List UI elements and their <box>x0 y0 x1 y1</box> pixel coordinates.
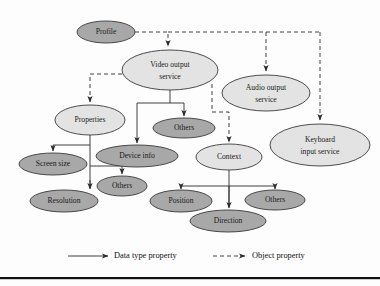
node-resolution[interactable]: Resolution <box>30 190 98 212</box>
node-video-output-service[interactable]: Video output service <box>122 50 218 90</box>
node-others-video-label: Others <box>174 123 194 132</box>
legend-object-label: Object property <box>252 251 306 260</box>
node-video-output-service-label-line1: Video output <box>150 60 190 69</box>
node-device-info[interactable]: Device info <box>96 145 178 167</box>
node-screen-size[interactable]: Screen size <box>19 153 87 175</box>
node-properties-label: Properties <box>75 115 106 124</box>
node-properties[interactable]: Properties <box>55 105 125 135</box>
node-context-label: Context <box>217 152 242 161</box>
edge-properties-screensize <box>53 145 90 151</box>
node-audio-output-service[interactable]: Audio output service <box>222 75 310 111</box>
node-keyboard-input-service[interactable]: Keyboard input service <box>270 124 370 166</box>
node-device-info-label: Device info <box>119 151 155 160</box>
node-profile-label: Profile <box>96 27 117 36</box>
node-others-context-label: Others <box>265 195 285 204</box>
node-position-label: Position <box>169 196 194 205</box>
node-audio-output-service-label-line2: service <box>255 95 277 104</box>
edge-video-others <box>170 103 184 116</box>
node-context[interactable]: Context <box>196 144 262 170</box>
edge-video-properties <box>90 74 122 102</box>
edge-profile-video <box>135 32 168 46</box>
ontology-svg-canvas: Profile Video output service Audio outpu… <box>0 0 380 286</box>
node-direction-label: Direction <box>214 216 243 225</box>
node-position[interactable]: Position <box>150 190 212 212</box>
legend: Data type property Object property <box>68 251 306 260</box>
node-keyboard-input-service-label-line2: input service <box>300 147 340 156</box>
node-others-properties[interactable]: Others <box>97 176 147 196</box>
legend-data-type-label: Data type property <box>114 251 178 260</box>
node-audio-output-service-label-line1: Audio output <box>246 83 287 92</box>
edge-properties-others <box>90 166 122 174</box>
node-others-context[interactable]: Others <box>245 190 305 210</box>
node-layer: Profile Video output service Audio outpu… <box>19 21 370 232</box>
node-video-output-service-label-line2: service <box>159 72 181 81</box>
node-profile[interactable]: Profile <box>77 21 135 43</box>
node-others-properties-label: Others <box>112 181 132 190</box>
bottom-divider <box>0 277 380 279</box>
edge-video-fork <box>137 90 170 103</box>
node-resolution-label: Resolution <box>48 196 81 205</box>
ontology-diagram: Profile Video output service Audio outpu… <box>0 0 380 286</box>
node-others-video[interactable]: Others <box>153 118 215 138</box>
node-keyboard-input-service-label-line1: Keyboard <box>305 135 335 144</box>
node-direction[interactable]: Direction <box>190 210 266 232</box>
node-screen-size-label: Screen size <box>36 159 71 168</box>
